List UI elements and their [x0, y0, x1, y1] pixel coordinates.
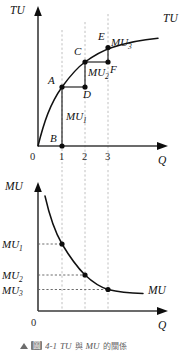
point-a [59, 84, 64, 89]
upper-tick-2: 2 [82, 151, 87, 162]
label-point-b: B [50, 132, 57, 144]
caption-tail-text: 的關係 [103, 340, 127, 351]
tu-curve [38, 38, 158, 146]
point-mu2 [82, 272, 87, 277]
ytick-mu3: MU3 [1, 284, 23, 299]
label-mu2-base: MU [87, 66, 106, 78]
label-mu1-sub: 1 [83, 116, 87, 125]
caption-mu-label: MU [86, 341, 100, 351]
caption-conjunction: 與 [75, 340, 83, 351]
upper-tick-1: 1 [59, 151, 64, 162]
point-mu1 [59, 241, 64, 246]
label-point-a: A [47, 74, 55, 86]
label-mu3-gap: MU3 [110, 36, 132, 51]
label-point-d: D [82, 88, 91, 100]
point-mu3 [105, 287, 110, 292]
ytick-mu1: MU1 [1, 238, 23, 253]
ytick-mu2-sub: 2 [19, 275, 23, 284]
x-axis-arrow [157, 142, 168, 150]
caption-tu-label: TU [60, 341, 72, 351]
ytick-mu1-base: MU [1, 238, 20, 250]
upper-tick-3: 3 [105, 151, 110, 162]
marginal-utility-chart: MU Q 0 MU1 MU2 MU3 MU [0, 170, 193, 338]
ytick-mu3-base: MU [1, 284, 20, 296]
caption-badge-label: 圖 [31, 341, 42, 350]
lower-x-axis-label: Q [158, 319, 167, 331]
y-axis-arrow [34, 182, 42, 192]
label-mu3-base: MU [110, 36, 129, 48]
label-mu2-gap: MU2 [87, 66, 109, 81]
ytick-mu1-sub: 1 [19, 244, 23, 253]
total-utility-chart: TU Q 0 1 2 3 B A D C F E MU1 MU2 MU3 TU [0, 0, 193, 170]
ytick-mu2: MU2 [1, 269, 23, 284]
tu-curve-label: TU [163, 12, 178, 24]
label-mu1-gap: MU1 [65, 110, 87, 125]
point-b [59, 143, 64, 148]
point-e [105, 45, 110, 50]
figure-container: TU Q 0 1 2 3 B A D C F E MU1 MU2 MU3 TU [0, 0, 193, 353]
figure-caption: 圖 4-1 TU 與 MU 的關係 [0, 338, 193, 353]
lower-origin-label: 0 [31, 317, 36, 328]
point-c [82, 59, 87, 64]
label-point-e: E [97, 30, 105, 42]
triangle-marker-icon [20, 343, 28, 349]
y-axis-arrow [34, 6, 42, 16]
ytick-mu3-sub: 3 [18, 289, 23, 298]
label-point-f: F [109, 63, 117, 75]
ytick-mu2-base: MU [1, 269, 20, 281]
mu-curve-label: MU [147, 284, 167, 296]
x-axis-arrow [157, 307, 168, 315]
label-point-c: C [74, 45, 82, 57]
label-mu2-sub: 2 [105, 72, 109, 81]
label-mu1-base: MU [65, 110, 84, 122]
caption-number: 4-1 [45, 341, 57, 351]
upper-tick-0: 0 [30, 151, 35, 162]
upper-x-axis-label: Q [158, 154, 167, 166]
label-mu3-sub: 3 [127, 42, 132, 51]
upper-y-axis-label: TU [10, 4, 25, 16]
lower-y-axis-label: MU [4, 180, 24, 192]
